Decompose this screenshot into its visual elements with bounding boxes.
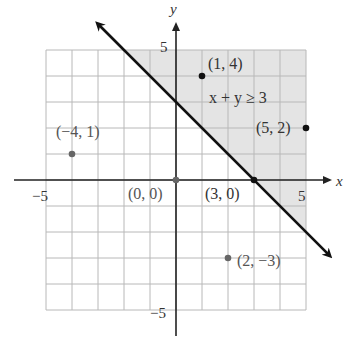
point-label-1-4: (1, 4) <box>208 55 243 73</box>
point-label-2-neg3: (2, −3) <box>237 252 281 270</box>
x-axis-label: x <box>335 173 343 189</box>
point-3-0 <box>251 177 258 184</box>
point-label-3-0: (3, 0) <box>205 185 240 203</box>
point-1-4 <box>199 73 206 80</box>
point-label-neg4-1: (−4, 1) <box>56 123 100 141</box>
point-2-−3 <box>225 255 232 262</box>
point-0-0 <box>173 177 180 184</box>
y-axis-label: y <box>168 1 177 17</box>
inequality-graph: x y −5 5 5 −5 x + y ≥ 3 (1, 4) (5, 2) (−… <box>0 0 346 348</box>
inequality-label: x + y ≥ 3 <box>209 89 267 107</box>
x-tick-label-5: 5 <box>298 188 306 204</box>
point-5-2 <box>303 125 310 132</box>
point-−4-1 <box>69 151 76 158</box>
y-tick-label-5: 5 <box>160 39 168 55</box>
x-tick-label-neg5: −5 <box>32 188 48 204</box>
point-label-0-0: (0, 0) <box>128 185 163 203</box>
y-tick-label-neg5: −5 <box>150 305 166 321</box>
point-label-5-2: (5, 2) <box>256 119 291 137</box>
